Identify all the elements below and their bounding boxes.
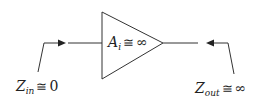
output-impedance-leader	[214, 43, 234, 74]
amplifier-gain-label: Ai≅∞	[108, 34, 148, 50]
input-impedance-subscript: in	[26, 86, 35, 96]
input-impedance-relation: ≅	[36, 79, 47, 94]
output-impedance-subscript: out	[205, 88, 220, 98]
output-arrow-icon	[206, 40, 214, 47]
output-impedance-relation: ≅	[222, 81, 233, 96]
input-impedance-leader	[38, 43, 58, 72]
gain-relation: ≅	[123, 35, 134, 50]
input-impedance-symbol: Z	[16, 78, 26, 94]
output-impedance-label: Zout≅∞	[195, 80, 246, 96]
input-arrow-icon	[58, 40, 66, 47]
gain-symbol: A	[108, 34, 118, 50]
input-impedance-value: 0	[49, 78, 58, 94]
input-impedance-label: Zin≅0	[16, 78, 58, 94]
output-impedance-value: ∞	[235, 80, 247, 96]
output-impedance-symbol: Z	[195, 80, 205, 96]
gain-value: ∞	[136, 34, 148, 50]
gain-subscript: i	[118, 42, 121, 52]
